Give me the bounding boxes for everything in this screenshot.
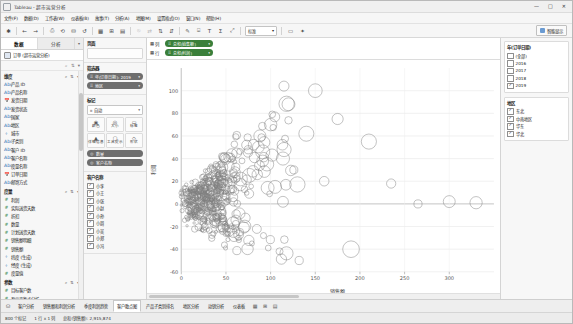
worksheet-tab-3[interactable]: 客户散点图 <box>113 300 141 312</box>
worksheet-tab-1[interactable]: 销售额和利润分析 <box>39 300 79 312</box>
new-story-icon[interactable]: ▤ <box>118 26 127 35</box>
checkbox-icon[interactable]: ✓ <box>87 228 94 235</box>
worksheet-tab-5[interactable]: 地区分析 <box>179 300 203 312</box>
field-城市[interactable]: ⌖城市 <box>1 129 83 137</box>
fix-axes-icon[interactable]: ⤢ <box>227 26 236 35</box>
detail-item-2[interactable]: ✓小张 <box>87 197 143 205</box>
field-目标客户数[interactable]: #目标客户数 <box>1 286 83 294</box>
checkbox-icon[interactable]: ✓ <box>507 131 514 138</box>
scatter-mark[interactable] <box>286 165 297 176</box>
search-icon[interactable]: ⌕ <box>65 63 68 68</box>
checkbox-icon[interactable]: ✓ <box>87 220 94 227</box>
maximize-button[interactable]: □ <box>548 4 553 9</box>
mark-button-tooltip[interactable]: ▢工具提示 <box>106 133 124 148</box>
mark-type-dropdown[interactable]: ⌗ 自动 ▾ <box>87 105 143 115</box>
scatter-mark[interactable] <box>332 113 343 124</box>
year-option-4[interactable]: ✓2019 <box>507 82 566 90</box>
presentation-mode-icon[interactable]: ▭ <box>286 26 295 35</box>
menu-item-5[interactable]: 分析(A) <box>115 15 129 21</box>
minimize-button[interactable]: — <box>534 4 539 9</box>
menu-item-9[interactable]: 帮助(H) <box>206 15 221 21</box>
tableau-logo-icon[interactable]: ✱ <box>4 26 13 35</box>
scatter-mark[interactable] <box>470 197 482 209</box>
scatter-mark[interactable] <box>290 177 305 192</box>
scatter-mark[interactable] <box>231 141 238 148</box>
checkbox-icon[interactable] <box>507 60 514 67</box>
scatter-mark[interactable] <box>252 169 262 179</box>
detail-item-0[interactable]: ✓小李 <box>87 182 143 190</box>
scatter-mark[interactable] <box>260 233 266 239</box>
new-worksheet-icon[interactable]: ▦ <box>251 302 259 310</box>
field-度量名称[interactable]: Abc度量名称 <box>1 162 83 170</box>
filter-pill-0[interactable]: ⠿年(订单日期): 2019▾ <box>87 73 143 80</box>
scatter-mark[interactable] <box>252 224 261 233</box>
close-button[interactable]: ✕ <box>562 4 566 9</box>
detail-item-6[interactable]: ✓小吴 <box>87 227 143 235</box>
checkbox-icon[interactable]: ✓ <box>87 205 94 212</box>
show-me-button[interactable]: 智能显示 <box>536 25 567 36</box>
columns-shelf[interactable]: ▦ 列 ⠿总和(销售额)▾ <box>150 39 497 48</box>
detail-item-4[interactable]: ✓小孙 <box>87 212 143 220</box>
rows-shelf[interactable]: ▦ 行 ⠿总和(利润)▾ <box>150 48 497 57</box>
highlight-icon[interactable]: ✎ <box>183 26 192 35</box>
checkbox-icon[interactable]: ✓ <box>87 183 94 190</box>
field-利润[interactable]: #利润 <box>1 195 83 203</box>
detail-item-7[interactable]: ✓小郑 <box>87 235 143 243</box>
filter-pill-1[interactable]: ⠿地区▾ <box>87 82 143 89</box>
scatter-mark[interactable] <box>277 196 288 207</box>
sort-ascending-icon[interactable]: ⇅ <box>156 26 165 35</box>
mark-button-size[interactable]: ◎大小 <box>106 117 124 132</box>
new-dashboard-icon[interactable]: ⊞ <box>107 26 116 35</box>
mark-button-color[interactable]: ◉颜色 <box>87 117 105 132</box>
data-source-tab-icon[interactable]: ⛁ <box>4 302 12 310</box>
mark-pill-1[interactable]: ◎客户名称 <box>87 159 143 166</box>
data-pane-options-icon[interactable]: ▾ <box>78 63 80 68</box>
menu-item-0[interactable]: 文件(F) <box>4 15 18 21</box>
mark-button-detail[interactable]: ▲详细信息 <box>87 133 105 148</box>
field-计划送货天数[interactable]: #计划送货天数 <box>1 228 83 236</box>
menu-item-6[interactable]: 地图(M) <box>136 15 151 21</box>
show-labels-icon[interactable]: T <box>205 26 214 35</box>
worksheet-tab-2[interactable]: 季度利润趋势 <box>80 300 112 312</box>
checkbox-icon[interactable]: ✓ <box>87 190 94 197</box>
checkbox-icon[interactable]: ✓ <box>507 116 514 123</box>
scatter-mark[interactable] <box>259 122 267 130</box>
field-折扣[interactable]: #折扣 <box>1 212 83 220</box>
menu-item-4[interactable]: 故事(T) <box>95 15 109 21</box>
scatter-mark[interactable] <box>285 117 292 124</box>
scatter-mark[interactable] <box>180 209 184 213</box>
scrollbar-thumb[interactable] <box>149 295 299 298</box>
checkbox-icon[interactable]: ✓ <box>87 235 94 242</box>
worksheet-tab-6[interactable]: 动销分析 <box>204 300 228 312</box>
columns-pill-0[interactable]: ⠿总和(销售额)▾ <box>165 40 213 47</box>
field-销售额[interactable]: #销售额 <box>1 245 83 253</box>
field-纬度 (生成)[interactable]: ⌖纬度 (生成) <box>1 253 83 261</box>
new-story-icon[interactable]: ▤ <box>271 302 279 310</box>
field-客户名称[interactable]: Abc客户名称 <box>1 154 83 162</box>
field-销售额明细[interactable]: #销售额明细 <box>1 236 83 244</box>
field-邮寄方式[interactable]: Abc邮寄方式 <box>1 178 83 186</box>
scatter-mark[interactable] <box>290 166 298 174</box>
menu-item-7[interactable]: 设置格式(O) <box>157 15 180 21</box>
detail-item-1[interactable]: ✓小王 <box>87 190 143 198</box>
scatter-plot[interactable]: -60-40-20020406080100050100150200250300销… <box>147 60 500 293</box>
totals-icon[interactable]: Σ <box>216 26 225 35</box>
field-发货日期[interactable]: 📅发货日期 <box>1 96 83 104</box>
undo-icon[interactable]: ↺ <box>80 26 89 35</box>
scatter-mark[interactable] <box>249 184 254 189</box>
year-option-0[interactable]: (全部) <box>507 52 566 60</box>
mark-pill-0[interactable]: ◎数量 <box>87 150 143 157</box>
new-data-source-icon[interactable]: ⛁ <box>69 26 78 35</box>
scatter-mark[interactable] <box>193 222 195 224</box>
tab-data[interactable]: 数据 <box>1 38 38 49</box>
scatter-mark[interactable] <box>248 139 259 150</box>
view-horizontal-scrollbar[interactable] <box>147 293 500 299</box>
scatter-mark[interactable] <box>256 145 270 159</box>
tab-analytics[interactable]: 分析 <box>38 38 75 49</box>
checkbox-icon[interactable]: ✓ <box>87 213 94 220</box>
menu-item-1[interactable]: 数据(D) <box>24 15 39 21</box>
detail-item-3[interactable]: ✓小赵 <box>87 205 143 213</box>
rows-pill-0[interactable]: ⠿总和(利润)▾ <box>165 49 213 56</box>
field-数量[interactable]: #数量 <box>1 220 83 228</box>
refresh-data-source-icon[interactable]: ⟲ <box>58 26 67 35</box>
